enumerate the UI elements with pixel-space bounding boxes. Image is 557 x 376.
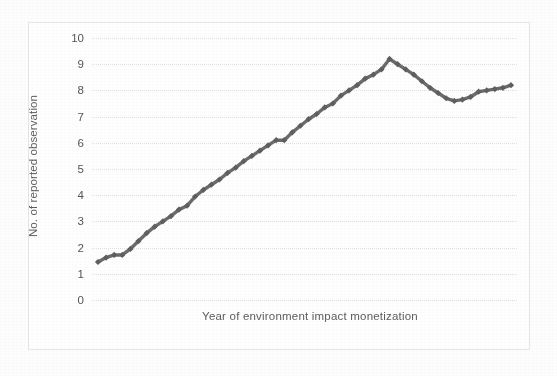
y-axis-tick-label: 8 — [58, 84, 84, 96]
line-series — [92, 38, 517, 300]
y-axis-tick-label: 7 — [58, 111, 84, 123]
data-point-marker — [484, 87, 490, 93]
y-axis-tick-label: 10 — [58, 32, 84, 44]
y-axis-tick-label: 5 — [58, 163, 84, 175]
y-axis-tick-label: 1 — [58, 268, 84, 280]
x-axis-title: Year of environment impact monetization — [95, 310, 525, 322]
y-axis-tick-label: 0 — [58, 294, 84, 306]
y-axis-tick-label: 2 — [58, 242, 84, 254]
y-axis-title: No. of reported observation — [27, 61, 39, 271]
y-axis-tick-label: 4 — [58, 189, 84, 201]
chart-figure: No. of reported observation 109876543210… — [0, 0, 557, 376]
y-axis-tick-labels: 109876543210 — [58, 0, 84, 376]
series-line — [98, 59, 511, 262]
y-axis-tick-label: 3 — [58, 215, 84, 227]
y-axis-tick-label: 6 — [58, 137, 84, 149]
chart-plot-wrapper: No. of reported observation 109876543210… — [0, 0, 557, 376]
plot-area — [92, 38, 517, 300]
gridline — [92, 300, 517, 302]
data-point-marker — [492, 86, 498, 92]
y-axis-tick-label: 9 — [58, 58, 84, 70]
